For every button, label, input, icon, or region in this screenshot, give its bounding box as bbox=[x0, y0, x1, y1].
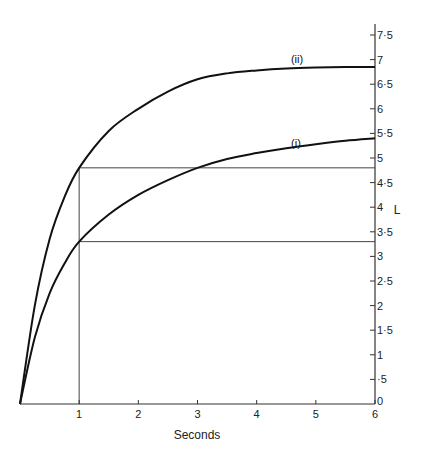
x-tick-label: 1 bbox=[76, 408, 82, 420]
y-tick-label: ·5 bbox=[377, 373, 387, 385]
x-tick-label: 4 bbox=[254, 408, 260, 420]
y-tick-label: 4 bbox=[377, 201, 383, 213]
y-tick-label: 2 bbox=[377, 300, 383, 312]
y-tick-label: 2·5 bbox=[377, 275, 393, 287]
y-tick-label: 6·5 bbox=[377, 78, 393, 90]
axes bbox=[20, 24, 375, 404]
y-tick-label: 4·5 bbox=[377, 177, 393, 189]
x-tick-label: 6 bbox=[372, 408, 378, 420]
line-chart: 1234560·511·522·533·544·555·566·577·5 Se… bbox=[0, 0, 422, 450]
y-tick-label: 7·5 bbox=[377, 29, 393, 41]
x-tick-label: 2 bbox=[135, 408, 141, 420]
curve-ii bbox=[20, 67, 375, 404]
tick-labels: 1234560·511·522·533·544·555·566·577·5 bbox=[76, 29, 393, 420]
y-tick-label: 1·5 bbox=[377, 324, 393, 336]
curves bbox=[20, 67, 375, 404]
y-tick-label: 3 bbox=[377, 250, 383, 262]
y-tick-label: 0 bbox=[377, 395, 383, 407]
y-tick-label: 5·5 bbox=[377, 127, 393, 139]
x-tick-label: 3 bbox=[194, 408, 200, 420]
y-tick-label: 7 bbox=[377, 54, 383, 66]
y-tick-label: 6 bbox=[377, 103, 383, 115]
y-axis-title: L bbox=[394, 203, 401, 217]
curve-label-i: (i) bbox=[291, 137, 301, 149]
x-axis-title: Seconds bbox=[174, 428, 221, 442]
curve-label-ii: (ii) bbox=[291, 53, 303, 65]
y-tick-label: 5 bbox=[377, 152, 383, 164]
y-tick-label: 1 bbox=[377, 349, 383, 361]
y-tick-label: 3·5 bbox=[377, 226, 393, 238]
x-tick-label: 5 bbox=[313, 408, 319, 420]
